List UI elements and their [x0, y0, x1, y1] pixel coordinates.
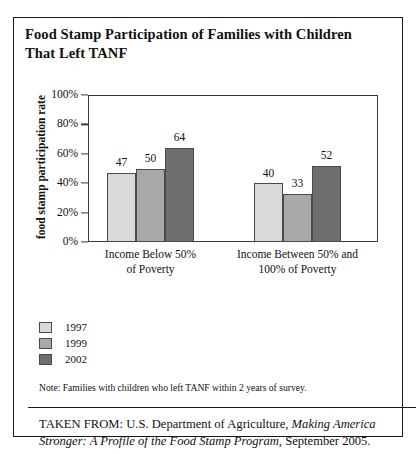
legend-swatch: [39, 338, 52, 349]
bar-group: 403352: [254, 95, 341, 242]
y-tick-mark: [81, 94, 88, 95]
bar: [254, 183, 283, 242]
y-tick-label: 100%: [51, 89, 78, 101]
legend-label: 1997: [65, 321, 87, 334]
figure-frame: Food Stamp Participation of Families wit…: [13, 17, 403, 437]
bar: [107, 173, 136, 242]
chart-note: Note: Families with children who left TA…: [39, 382, 307, 394]
x-category-line: Income Between 50% and: [223, 247, 373, 262]
legend-swatch: [39, 322, 52, 333]
source-citation: TAKEN FROM: U.S. Department of Agricultu…: [39, 416, 395, 451]
page-title: Food Stamp Participation of Families wit…: [25, 25, 385, 63]
y-tick-mark: [81, 212, 88, 213]
y-tick-label: 40%: [57, 177, 78, 189]
y-tick-mark: [81, 183, 88, 184]
source-suffix: , September 2005.: [279, 434, 371, 448]
bar: [312, 166, 341, 242]
bar: [165, 148, 194, 242]
bar-chart: food stamp participation rate 100%80%60%…: [25, 91, 393, 291]
bar-group: 475064: [107, 95, 194, 242]
y-axis-ticks: 100%80%60%40%20%0%: [25, 91, 88, 246]
x-category-line: of Poverty: [76, 262, 226, 277]
x-category-line: Income Below 50%: [76, 247, 226, 262]
bars-container: 475064403352: [88, 95, 378, 242]
legend-swatch: [39, 354, 52, 365]
legend-label: 2002: [65, 353, 87, 366]
y-tick-label: 60%: [57, 148, 78, 160]
bar-value-label: 52: [306, 150, 347, 162]
source-divider: [28, 407, 416, 408]
bar: [136, 169, 165, 243]
y-tick-mark: [81, 153, 88, 154]
y-tick-label: 20%: [57, 207, 78, 219]
x-category-line: 100% of Poverty: [223, 262, 373, 277]
bar: [283, 194, 312, 243]
x-category-label: Income Between 50% and100% of Poverty: [223, 247, 373, 277]
source-prefix: TAKEN FROM: U.S. Department of Agricultu…: [39, 417, 292, 431]
y-tick-mark: [81, 241, 88, 242]
bar-value-label: 64: [159, 132, 200, 144]
y-tick-mark: [81, 124, 88, 125]
y-tick-label: 80%: [57, 119, 78, 131]
x-category-label: Income Below 50%of Poverty: [76, 247, 226, 277]
legend-label: 1999: [65, 337, 87, 350]
